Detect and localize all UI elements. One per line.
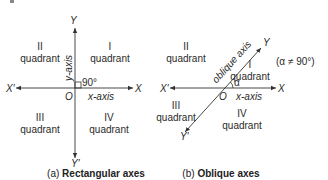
caption-oblique-axes: (b) Oblique axes — [182, 168, 259, 179]
quadrant-word: quadrant — [156, 112, 195, 124]
origin-label: O — [65, 91, 73, 102]
x-positive-label: X — [135, 83, 142, 94]
y-positive-label: Y — [70, 15, 77, 26]
x-negative-label: X′ — [160, 83, 169, 94]
y-negative-label: Y′ — [180, 131, 189, 142]
quadrant-word: quadrant — [90, 53, 129, 65]
quadrant-numeral: I — [230, 59, 269, 71]
quadrant-iv-label: IV quadrant — [89, 112, 128, 136]
right-angle-mark — [75, 82, 81, 88]
x-negative-label: X′ — [6, 83, 15, 94]
quadrant-word: quadrant — [166, 53, 205, 65]
quadrant-numeral: III — [156, 100, 195, 112]
quadrant-word: quadrant — [20, 53, 59, 65]
quadrant-word: quadrant — [230, 71, 269, 83]
quadrant-numeral: IV — [89, 112, 128, 124]
quadrant-word: quadrant — [222, 120, 261, 132]
x-positive-label: X — [278, 83, 285, 94]
quadrant-ii-label: II quadrant — [20, 41, 59, 65]
x-axis-label: x-axis — [236, 91, 262, 102]
caption-title: Rectangular axes — [62, 168, 145, 179]
caption-rectangular-axes: (a) Rectangular axes — [47, 168, 145, 179]
quadrant-i-label: I quadrant — [90, 41, 129, 65]
quadrant-numeral: IV — [222, 108, 261, 120]
quadrant-iii-label: III quadrant — [156, 100, 195, 124]
quadrant-ii-label: II quadrant — [166, 41, 205, 65]
quadrant-iv-label: IV quadrant — [222, 108, 261, 132]
quadrant-numeral: II — [20, 41, 59, 53]
quadrant-word: quadrant — [89, 124, 128, 136]
quadrant-i-label: I quadrant — [230, 59, 269, 83]
y-positive-label: Y — [263, 37, 270, 48]
quadrant-iii-label: III quadrant — [20, 112, 59, 136]
quadrant-numeral: III — [20, 112, 59, 124]
quadrant-word: quadrant — [20, 124, 59, 136]
origin-label: O — [219, 91, 227, 102]
caption-prefix: (a) — [47, 168, 59, 179]
right-angle-label: 90° — [82, 77, 97, 88]
x-axis-label: x-axis — [88, 91, 114, 102]
quadrant-numeral: I — [90, 41, 129, 53]
y-axis-label: y-axis — [63, 55, 74, 81]
angle-condition-label: (α ≠ 90°) — [276, 56, 315, 67]
caption-prefix: (b) — [182, 168, 194, 179]
caption-title: Oblique axes — [197, 168, 259, 179]
quadrant-numeral: II — [166, 41, 205, 53]
